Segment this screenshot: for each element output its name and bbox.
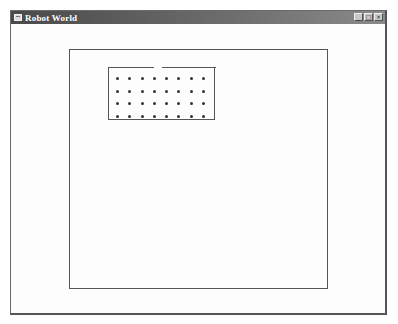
grid-dot bbox=[141, 77, 144, 80]
maximize-button[interactable]: □ bbox=[364, 13, 373, 21]
grid-dot bbox=[202, 77, 205, 80]
grid-dot bbox=[153, 102, 156, 105]
grid-dot bbox=[190, 115, 193, 118]
grid-dot bbox=[202, 90, 205, 93]
close-button[interactable]: × bbox=[374, 13, 383, 21]
grid-dot bbox=[128, 102, 131, 105]
minimize-icon: _ bbox=[357, 13, 360, 20]
minimize-button[interactable]: _ bbox=[354, 13, 363, 21]
title-bar[interactable]: Robot World _ □ × bbox=[11, 11, 385, 24]
grid-dot bbox=[116, 115, 119, 118]
close-icon: × bbox=[376, 13, 381, 20]
grid-dot bbox=[177, 77, 180, 80]
grid-dot bbox=[165, 102, 168, 105]
maximize-icon: □ bbox=[366, 13, 372, 20]
room-top-wall-left bbox=[108, 67, 154, 68]
grid-dot bbox=[128, 77, 131, 80]
grid-dot bbox=[141, 115, 144, 118]
grid-dot bbox=[177, 90, 180, 93]
grid-dot bbox=[116, 102, 119, 105]
grid-dot bbox=[177, 115, 180, 118]
app-window-icon[interactable] bbox=[14, 14, 22, 21]
grid-dot bbox=[141, 102, 144, 105]
grid-dot bbox=[128, 90, 131, 93]
window-controls: _ □ × bbox=[354, 13, 383, 21]
beeper-grid bbox=[116, 77, 214, 127]
grid-dot bbox=[153, 115, 156, 118]
grid-dot bbox=[165, 90, 168, 93]
grid-dot bbox=[190, 77, 193, 80]
grid-dot bbox=[177, 102, 180, 105]
grid-dot bbox=[153, 77, 156, 80]
grid-dot bbox=[202, 115, 205, 118]
grid-dot bbox=[141, 90, 144, 93]
arena-boundary bbox=[69, 49, 328, 289]
room-door-opening[interactable] bbox=[154, 66, 162, 69]
grid-dot bbox=[116, 77, 119, 80]
room-walls bbox=[108, 67, 215, 120]
grid-dot bbox=[202, 102, 205, 105]
grid-dot bbox=[165, 115, 168, 118]
grid-dot bbox=[190, 90, 193, 93]
grid-dot bbox=[153, 90, 156, 93]
grid-dot bbox=[128, 115, 131, 118]
room-top-wall-right bbox=[162, 67, 216, 68]
world-canvas[interactable] bbox=[11, 24, 385, 313]
grid-dot bbox=[165, 77, 168, 80]
grid-dot bbox=[116, 90, 119, 93]
grid-dot bbox=[190, 102, 193, 105]
robot-world-window: Robot World _ □ × bbox=[10, 10, 387, 315]
window-title: Robot World bbox=[25, 13, 77, 23]
